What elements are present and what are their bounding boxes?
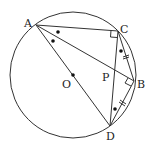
right-angle-mark-C [111,31,118,38]
angle-dot-BDC [113,107,117,111]
geometry-diagram: A C B D O P [0,0,154,152]
center-point-O [71,73,75,77]
label-D: D [106,130,115,143]
segment-AC [36,25,118,31]
label-O: O [62,78,71,91]
label-A: A [23,17,33,30]
label-B: B [137,78,145,91]
angle-dot-BCD [119,49,123,53]
segment-CD [110,31,118,126]
label-C: C [120,23,128,36]
angle-dot-BAD [51,39,55,43]
angle-dot-CAB [56,30,60,34]
label-P: P [102,71,110,84]
